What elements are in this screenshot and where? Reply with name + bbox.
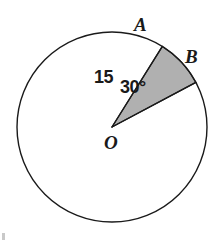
radius-measure-label: 15	[94, 68, 113, 86]
central-angle-label: 30°	[120, 78, 146, 96]
point-label-b: B	[185, 47, 198, 66]
corner-artifact-mark	[2, 233, 5, 240]
point-label-a: A	[134, 15, 147, 34]
circle-sector-svg	[0, 0, 219, 242]
geometry-figure: A B O 15 30°	[0, 0, 219, 242]
center-label-o: O	[104, 133, 118, 152]
